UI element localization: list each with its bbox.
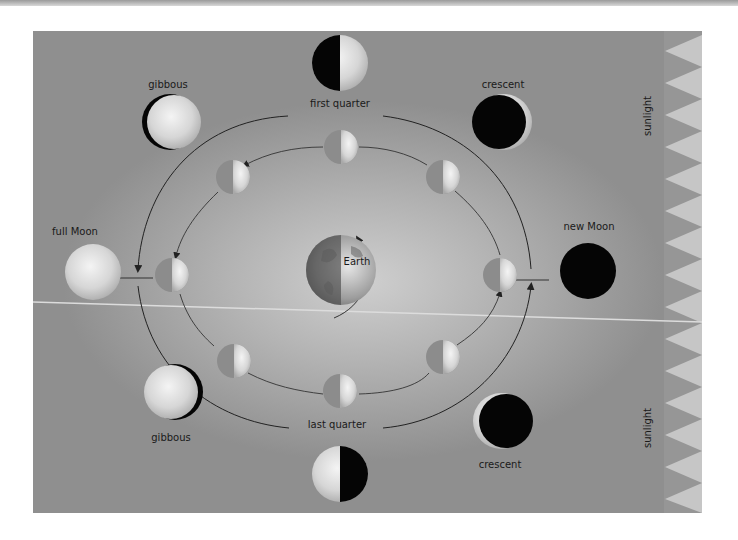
moon-full: [65, 244, 121, 300]
earth: [306, 235, 376, 305]
moon-crescent-top: [472, 94, 532, 150]
top-bar: [0, 0, 738, 6]
earth-label: Earth: [344, 256, 371, 267]
moon-new: [560, 243, 616, 299]
moon-first-quarter: [312, 35, 368, 91]
last-quarter-label: last quarter: [308, 419, 366, 430]
sunlight-label-bottom: sunlight: [642, 408, 653, 448]
crescent-top-label: crescent: [482, 79, 525, 90]
moon-gibbous-bottom: [144, 364, 203, 420]
gibbous-top-label: gibbous: [148, 79, 188, 90]
sunlight-teeth: [664, 31, 702, 513]
full-moon-label: full Moon: [52, 226, 98, 237]
horizon-line: [33, 302, 702, 322]
moon-crescent-bottom: [473, 393, 533, 449]
crescent-bottom-label: crescent: [479, 459, 522, 470]
gibbous-bottom-label: gibbous: [151, 432, 191, 443]
moon-last-quarter: [312, 446, 368, 502]
first-quarter-label: first quarter: [310, 98, 370, 109]
new-moon-label: new Moon: [563, 221, 614, 232]
sunlight-label-top: sunlight: [642, 96, 653, 136]
moon-gibbous-top: [142, 94, 201, 150]
moon-phases-diagram: Earth first quarter gibbous crescent ful…: [33, 31, 702, 513]
